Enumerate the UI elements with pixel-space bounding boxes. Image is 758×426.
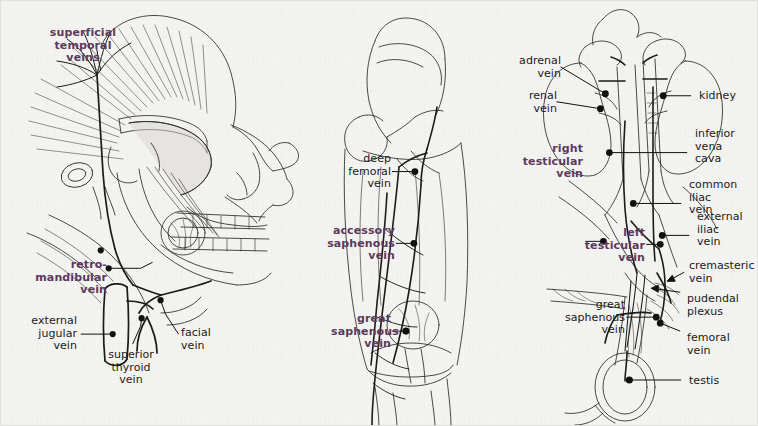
label-inferior-vena-cava[interactable]: inferior vena cava	[695, 128, 755, 166]
label-great-saphenous-vein-2[interactable]: great saphenous vein	[563, 299, 625, 337]
panel-lower-limb	[319, 1, 507, 426]
label-femoral-vein[interactable]: femoral vein	[687, 332, 745, 357]
label-superior-thyroid-vein[interactable]: superior thyroid vein	[95, 349, 167, 387]
label-kidney[interactable]: kidney	[699, 90, 753, 103]
lower-limb-illustration	[319, 1, 507, 426]
label-right-testicular-vein[interactable]: right testicular vein	[519, 143, 583, 181]
label-retromandibular-vein[interactable]: retro- mandibular vein	[9, 259, 107, 297]
label-great-saphenous-vein[interactable]: great saphenous vein	[331, 313, 391, 351]
label-accessory-saphenous-vein[interactable]: accessory saphenous vein	[325, 225, 395, 263]
label-adrenal-vein[interactable]: adrenal vein	[507, 55, 561, 80]
label-left-testicular-vein[interactable]: left testicular vein	[579, 227, 645, 265]
label-external-jugular-vein[interactable]: external jugular vein	[5, 315, 77, 353]
label-superficial-temporal-veins[interactable]: superficial temporal veins	[37, 27, 129, 65]
label-renal-vein[interactable]: renal vein	[509, 90, 557, 115]
label-deep-femoral-vein[interactable]: deep femoral vein	[331, 153, 391, 191]
anatomy-plate: superficial temporal veins retro- mandib…	[0, 0, 758, 426]
label-cremasteric-vein[interactable]: cremasteric vein	[689, 260, 758, 285]
label-testis[interactable]: testis	[689, 375, 737, 388]
label-facial-vein[interactable]: facial vein	[181, 327, 237, 352]
label-pudendal-plexus[interactable]: pudendal plexus	[687, 293, 753, 318]
label-external-iliac-vein[interactable]: external iliac vein	[697, 211, 755, 249]
